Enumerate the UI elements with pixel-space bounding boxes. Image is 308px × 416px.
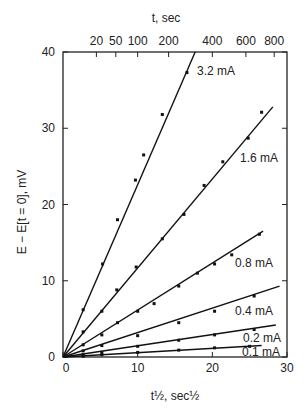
data-point — [82, 349, 85, 352]
data-point — [213, 346, 216, 349]
data-point — [142, 153, 145, 156]
data-point — [185, 71, 188, 74]
top-tick-label: 200 — [159, 34, 179, 48]
top-tick-label: 800 — [264, 34, 284, 48]
top-tick-label: 100 — [128, 34, 148, 48]
series-1-6-mA: 1.6 mA — [63, 107, 278, 357]
top-tick-label: 50 — [109, 34, 123, 48]
data-point — [258, 233, 261, 236]
data-point — [115, 288, 118, 291]
data-point — [213, 310, 216, 313]
data-point — [253, 295, 256, 298]
data-point — [177, 349, 180, 352]
series-label: 3.2 mA — [197, 64, 235, 78]
data-point — [247, 137, 250, 140]
data-point — [136, 351, 139, 354]
data-point — [136, 310, 139, 313]
series-label: 0.1 mA — [242, 345, 280, 359]
top-tick-label: 400 — [202, 34, 222, 48]
data-point — [116, 321, 119, 324]
x-tick-label: 10 — [131, 361, 145, 375]
y-tick-label: 20 — [42, 198, 56, 212]
data-point — [153, 302, 156, 305]
data-point — [101, 262, 104, 265]
data-point — [177, 339, 180, 342]
data-point — [82, 330, 85, 333]
data-point — [136, 345, 139, 348]
series-0-8-mA: 0.8 mA — [63, 231, 273, 357]
data-point — [177, 321, 180, 324]
x-tick-label: 20 — [206, 361, 220, 375]
y-tick-label: 40 — [42, 45, 56, 59]
data-point — [116, 218, 119, 221]
data-point — [221, 160, 224, 163]
chart: 01020304001020302050100200400600800 3.2 … — [0, 0, 308, 416]
data-point — [230, 253, 233, 256]
series-label: 0.8 mA — [235, 256, 273, 270]
series-group: 3.2 mA1.6 mA0.8 mA0.4 mA0.2 mA0.1 mA — [63, 52, 281, 359]
data-point — [134, 179, 137, 182]
data-point — [161, 237, 164, 240]
data-point — [82, 343, 85, 346]
data-point — [100, 344, 103, 347]
x-axis-label: t½, sec½ — [151, 389, 200, 403]
top-axis-label: t, sec — [152, 11, 181, 25]
y-tick-label: 10 — [42, 274, 56, 288]
data-point — [182, 213, 185, 216]
data-point — [161, 113, 164, 116]
top-tick-label: 20 — [90, 34, 104, 48]
data-point — [100, 333, 103, 336]
series-label: 0.2 mA — [243, 331, 281, 345]
y-tick-label: 30 — [42, 121, 56, 135]
data-point — [177, 285, 180, 288]
y-tick-label: 0 — [48, 350, 55, 364]
series-3-2-mA: 3.2 mA — [63, 52, 235, 357]
data-point — [213, 333, 216, 336]
data-point — [260, 111, 263, 114]
series-label: 0.4 mA — [235, 304, 273, 318]
top-tick-label: 600 — [236, 34, 256, 48]
data-point — [203, 184, 206, 187]
y-axis-label: E − E[t = 0], mV — [15, 170, 29, 255]
x-tick-label: 0 — [63, 361, 70, 375]
series-label: 1.6 mA — [240, 151, 278, 165]
data-point — [82, 355, 85, 358]
x-tick-label: 30 — [280, 361, 294, 375]
data-point — [135, 266, 138, 269]
data-point — [82, 308, 85, 311]
data-point — [213, 262, 216, 265]
data-point — [100, 310, 103, 313]
data-point — [196, 272, 199, 275]
data-point — [136, 334, 139, 337]
data-point — [100, 353, 103, 356]
plot-axes: 01020304001020302050100200400600800 — [42, 34, 294, 375]
